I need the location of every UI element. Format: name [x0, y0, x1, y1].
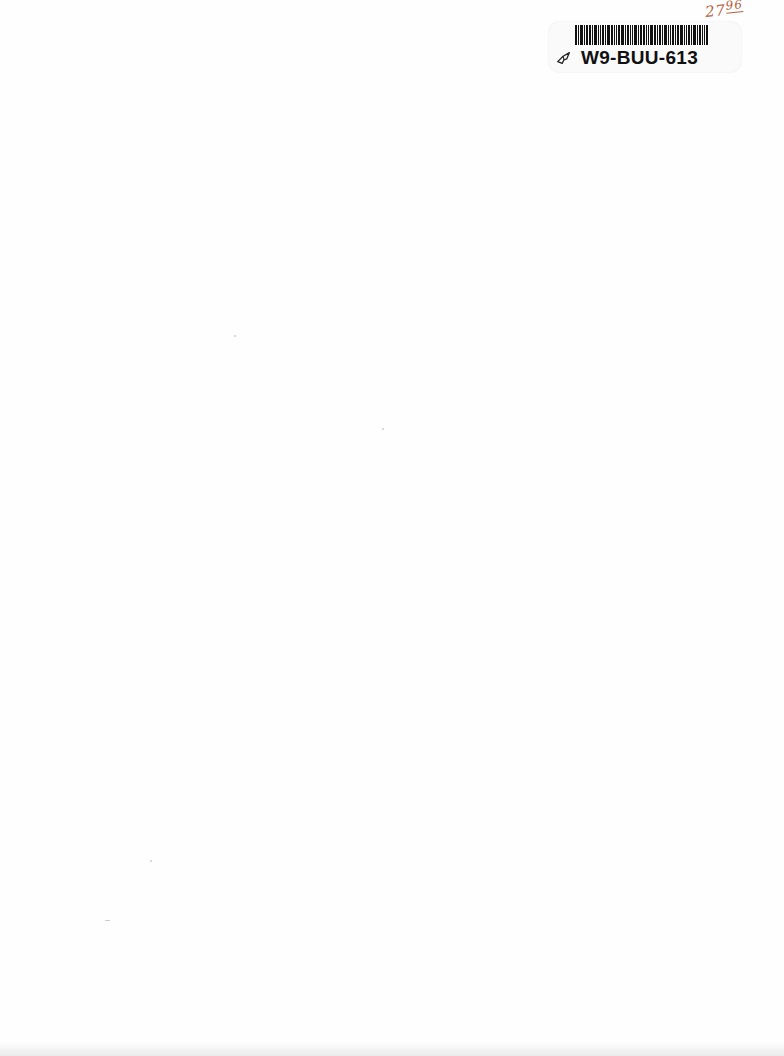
scanned-page: 2796 W9-BUU-613: [0, 0, 784, 1056]
library-barcode-label: W9-BUU-613: [549, 22, 741, 72]
book-icon: [555, 49, 573, 67]
barcode: [575, 25, 733, 45]
handwritten-number: 2796: [704, 0, 744, 21]
page-edge-shadow: [0, 1042, 784, 1056]
scan-speck: [105, 920, 110, 921]
handwritten-main: 27: [704, 1, 727, 21]
scan-speck: [382, 428, 384, 430]
scan-speck: [234, 335, 236, 337]
barcode-id: W9-BUU-613: [581, 47, 698, 69]
label-row: W9-BUU-613: [555, 47, 698, 69]
handwritten-superscript: 96: [725, 0, 744, 14]
scan-speck: [150, 860, 152, 862]
